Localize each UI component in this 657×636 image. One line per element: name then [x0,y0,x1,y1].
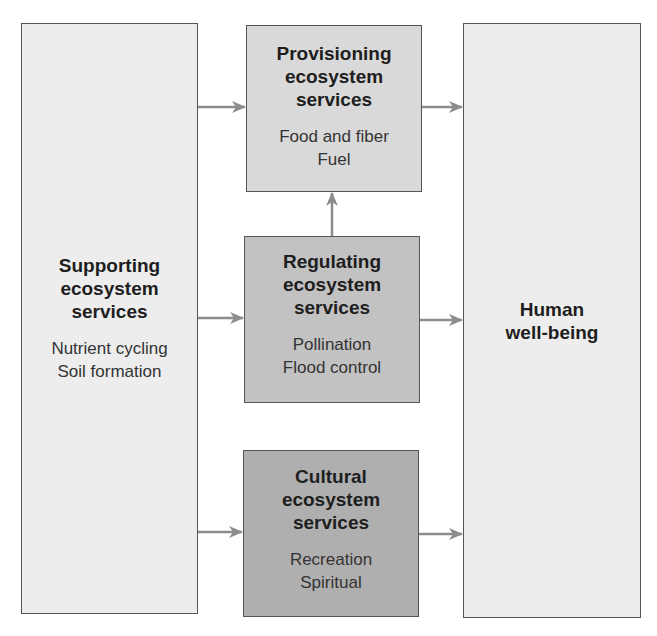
regulating-services-items: Pollination Flood control [283,333,381,379]
provisioning-services-title: Provisioning ecosystem services [276,42,391,111]
supporting-services-items: Nutrient cycling Soil formation [51,337,167,383]
human-wellbeing-title: Human well-being [506,298,599,344]
human-wellbeing-box: Human well-being [463,23,641,618]
cultural-services-title: Cultural ecosystem services [282,465,380,534]
cultural-services-box: Cultural ecosystem services Recreation S… [243,450,419,617]
provisioning-services-items: Food and fiber Fuel [279,125,389,171]
regulating-services-box: Regulating ecosystem services Pollinatio… [244,236,420,403]
regulating-services-title: Regulating ecosystem services [283,250,381,319]
supporting-services-box: Supporting ecosystem services Nutrient c… [21,23,198,614]
cultural-services-items: Recreation Spiritual [290,548,372,594]
provisioning-services-box: Provisioning ecosystem services Food and… [246,25,422,192]
supporting-services-title: Supporting ecosystem services [59,254,160,323]
